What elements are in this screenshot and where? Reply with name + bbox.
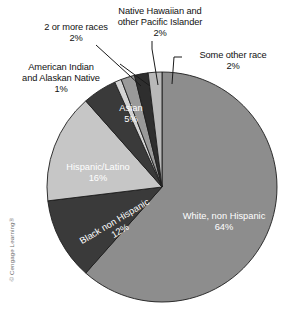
pie-slices-group [47, 72, 277, 302]
slice-label-hispanic-name: Hispanic/Latino [66, 162, 130, 172]
slice-label-white-pct: 64% [215, 222, 234, 232]
slice-label-white-name: White, non Hispanic [183, 211, 266, 221]
callout-american-indian-pct: 1% [2, 84, 120, 95]
callout-native-hawaiian-line2: other Pacific Islander [105, 17, 215, 28]
callout-native-hawaiian: Native Hawaiian and other Pacific Island… [105, 6, 215, 39]
callout-american-indian-line2: and Alaskan Native [2, 73, 120, 84]
copyright-credit: © Cengage Learning® [8, 212, 15, 282]
callout-two-or-more-races-line1: 2 or more races [44, 22, 108, 32]
callout-american-indian: American Indian and Alaskan Native 1% [2, 62, 120, 95]
callout-native-hawaiian-pct: 2% [105, 28, 215, 39]
callout-native-hawaiian-line1: Native Hawaiian and [118, 6, 201, 16]
slice-label-hispanic-pct: 16% [89, 173, 108, 183]
slice-label-asian-pct: 5% [124, 114, 137, 124]
callout-american-indian-line1: American Indian [28, 62, 94, 72]
pie-chart-figure: White, non Hispanic 64% Hispanic/Latino … [0, 0, 284, 309]
callout-some-other-race-pct: 2% [186, 61, 280, 72]
slice-label-asian-name: Asian [119, 103, 142, 113]
callout-some-other-race: Some other race 2% [186, 50, 280, 72]
callout-some-other-race-line1: Some other race [199, 50, 266, 60]
pie-chart-canvas: White, non Hispanic 64% Hispanic/Latino … [0, 0, 284, 309]
